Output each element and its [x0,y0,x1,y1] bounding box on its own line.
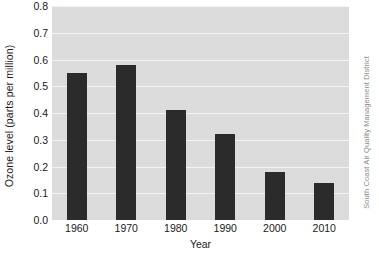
gridline [52,140,349,141]
gridline [52,60,349,61]
y-axis-tick-label: 0.3 [33,134,48,146]
bar [314,183,334,220]
gridline [52,193,349,194]
y-axis-tick-label: 0.7 [33,27,48,39]
y-axis-title-text: Ozone level (parts per million) [3,45,15,188]
bar [265,172,285,220]
y-axis-tick-label: 0.0 [33,214,48,226]
gridline [52,167,349,168]
y-axis-tick-label: 0.8 [33,0,48,12]
y-axis-tick-label: 0.4 [33,107,48,119]
gridline [52,6,349,7]
y-axis-tick-label: 0.6 [33,54,48,66]
gridline [52,113,349,114]
ozone-level-bar-chart: Ozone level (parts per million) 0.00.10.… [0,0,379,269]
bar [215,134,235,220]
x-axis-tick-label: 2000 [263,222,286,234]
gridline [52,86,349,87]
plot-area [52,6,349,220]
x-axis-tick-label: 1980 [164,222,187,234]
x-axis-tick-label: 2010 [313,222,336,234]
x-axis-tick-label: 1990 [214,222,237,234]
y-axis-tick-labels: 0.00.10.20.30.40.50.60.70.8 [18,0,52,232]
y-axis-tick-label: 0.2 [33,161,48,173]
y-axis-tick-label: 0.1 [33,187,48,199]
x-axis-tick-label: 1960 [65,222,88,234]
bar [166,110,186,220]
source-credit: South Coast Air Quality Management Distr… [353,0,379,265]
gridline [52,33,349,34]
bar [116,65,136,220]
y-axis-tick-label: 0.5 [33,80,48,92]
x-axis-tick-labels: 196019701980199020002010 [52,222,349,238]
bar [67,73,87,220]
x-axis-title: Year [52,238,349,250]
y-axis-title: Ozone level (parts per million) [0,0,18,232]
source-credit-text: South Coast Air Quality Management Distr… [362,56,371,209]
x-axis-tick-label: 1970 [115,222,138,234]
